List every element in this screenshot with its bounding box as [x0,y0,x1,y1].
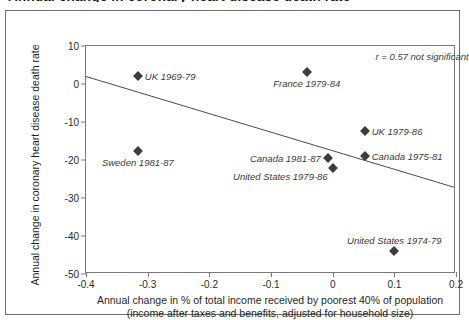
data-point-marker [360,151,370,161]
x-tick-mark [271,272,272,277]
figure-frame: 100-10-20-30-40-50-0.4-0.3-0.2-0.100.10.… [5,10,460,315]
y-tick-label: -20 [65,155,79,166]
y-tick-mark [81,122,86,123]
x-tick-label: 0 [330,279,336,290]
data-point-label: UK 1979-86 [372,126,423,137]
data-point-label: Sweden 1981-87 [102,156,174,167]
data-point-label: United States 1974-79 [347,235,442,246]
plot-inner: 100-10-20-30-40-50-0.4-0.3-0.2-0.100.10.… [86,46,454,272]
y-tick-mark [81,160,86,161]
x-tick-label: -0.1 [262,279,279,290]
x-tick-mark [456,272,457,277]
data-point-marker [133,71,143,81]
data-point-marker [302,67,312,77]
data-point-label: France 1979-84 [273,77,340,88]
data-point-marker [389,246,399,256]
y-tick-mark [81,46,86,47]
plot-area: 100-10-20-30-40-50-0.4-0.3-0.2-0.100.10.… [85,45,455,273]
clipped-header-text: Annual change in coronary heart disease … [8,0,458,2]
x-tick-label: -0.2 [201,279,218,290]
data-point-marker [360,126,370,136]
data-point-marker [133,146,143,156]
data-point-marker [328,163,338,173]
y-tick-label: -10 [65,117,79,128]
x-axis-title: Annual change in % of total income recei… [85,294,455,320]
data-point-label: United States 1979-86 [233,170,328,181]
y-tick-label: -40 [65,231,79,242]
x-tick-mark [333,272,334,277]
y-tick-label: 0 [73,79,79,90]
x-tick-label: 0.1 [387,279,401,290]
data-point-label: Canada 1975-81 [372,151,443,162]
data-point-marker [323,154,333,164]
y-tick-label: -50 [65,269,79,280]
x-tick-mark [209,272,210,277]
x-tick-mark [148,272,149,277]
x-tick-mark [86,272,87,277]
x-axis-title-line2: (income after taxes and benefits, adjust… [85,307,455,320]
y-tick-label: -30 [65,193,79,204]
y-tick-mark [81,84,86,85]
data-point-label: Canada 1981-87 [250,153,321,164]
y-tick-label: 10 [68,41,79,52]
x-axis-title-line1: Annual change in % of total income recei… [85,294,455,307]
x-tick-mark [394,272,395,277]
y-tick-mark [81,198,86,199]
x-tick-label: -0.3 [139,279,156,290]
y-axis-title: Annual change in coronary heart disease … [29,40,41,290]
y-tick-mark [81,236,86,237]
x-tick-label: 0.2 [449,279,463,290]
correlation-annotation: r = 0.57 not significant [375,50,468,61]
data-point-label: UK 1969-79 [145,70,196,81]
x-tick-label: -0.4 [77,279,94,290]
